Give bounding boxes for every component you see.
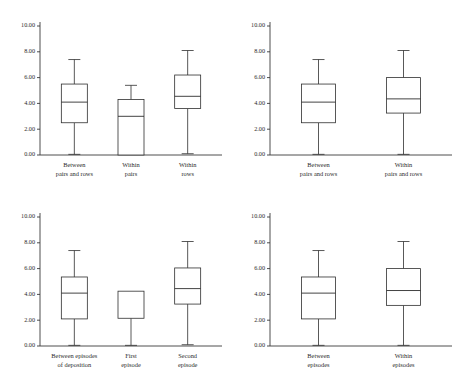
x-axis-category-label: pairs and rows <box>56 170 94 177</box>
x-axis-category-label: Between <box>307 352 330 359</box>
y-axis-tick-label: 8.00 <box>24 47 35 54</box>
box-iqr-rect <box>175 75 201 109</box>
box-iqr-rect <box>118 100 144 155</box>
x-axis-category-label: episodes <box>307 361 330 368</box>
x-axis-category-label: Within <box>395 161 413 168</box>
x-axis-category-label: Within <box>122 161 140 168</box>
y-axis-tick-label: 2.00 <box>24 125 35 132</box>
y-axis-tick-label: 0.00 <box>254 150 265 157</box>
x-axis-category-label: Second <box>178 352 198 359</box>
y-axis-tick-label: 6.00 <box>254 264 265 271</box>
y-axis-tick-label: 10.00 <box>251 212 265 219</box>
y-axis-tick-label: 4.00 <box>254 290 265 297</box>
x-axis-category-label: pairs and rows <box>300 170 338 177</box>
box-plot-group <box>175 242 201 345</box>
box-plot-group <box>61 60 87 155</box>
box-plot-group <box>61 251 87 346</box>
x-axis-category-label: Within <box>179 161 197 168</box>
y-axis-tick-label: 8.00 <box>254 47 265 54</box>
y-axis-tick-label: 10.00 <box>21 21 35 28</box>
y-axis-tick-label: 10.00 <box>21 212 35 219</box>
x-axis-category-label: Within <box>395 352 413 359</box>
box-plot-group <box>387 242 421 346</box>
y-axis-tick-label: 10.00 <box>251 21 265 28</box>
box-iqr-rect <box>387 269 421 306</box>
y-axis-tick-label: 6.00 <box>24 264 35 271</box>
boxplot-svg-bottom-right: 0.002.004.006.008.0010.00Betweenepisodes… <box>230 191 460 382</box>
boxplot-svg-top-right: 0.002.004.006.008.0010.00Betweenpairs an… <box>230 0 460 191</box>
chart-panel-bottom-left: 0.002.004.006.008.0010.00Between episode… <box>0 191 230 382</box>
x-axis-category-label: episode <box>121 361 141 368</box>
y-axis-tick-label: 2.00 <box>254 125 265 132</box>
y-axis-tick-label: 2.00 <box>254 316 265 323</box>
boxplot-svg-top-left: 0.002.004.006.008.0010.00Betweenpairs an… <box>0 0 230 191</box>
x-axis-category-label: Between episodes <box>51 352 97 359</box>
box-plot-group <box>118 291 144 345</box>
boxplot-figure: 0.002.004.006.008.0010.00Betweenpairs an… <box>0 0 460 382</box>
box-plot-group <box>175 51 201 154</box>
x-axis-category-label: episode <box>178 361 198 368</box>
y-axis-tick-label: 2.00 <box>24 316 35 323</box>
box-plot-group <box>118 85 144 155</box>
box-iqr-rect <box>302 277 336 319</box>
boxplot-svg-bottom-left: 0.002.004.006.008.0010.00Between episode… <box>0 191 230 382</box>
box-plot-group <box>302 251 336 346</box>
box-iqr-rect <box>387 78 421 113</box>
box-plot-group <box>302 60 336 155</box>
chart-panel-bottom-right: 0.002.004.006.008.0010.00Betweenepisodes… <box>230 191 460 382</box>
y-axis-tick-label: 4.00 <box>24 99 35 106</box>
x-axis-category-label: Between <box>307 161 330 168</box>
y-axis-tick-label: 6.00 <box>24 73 35 80</box>
box-plot-group <box>387 51 421 155</box>
y-axis-tick-label: 0.00 <box>24 341 35 348</box>
y-axis-tick-label: 0.00 <box>24 150 35 157</box>
y-axis-tick-label: 4.00 <box>24 290 35 297</box>
x-axis-category-label: rows <box>181 170 194 177</box>
y-axis-tick-label: 6.00 <box>254 73 265 80</box>
x-axis-category-label: Between <box>63 161 86 168</box>
box-iqr-rect <box>175 268 201 304</box>
box-iqr-rect <box>61 84 87 123</box>
box-iqr-rect <box>302 84 336 123</box>
chart-panel-top-left: 0.002.004.006.008.0010.00Betweenpairs an… <box>0 0 230 191</box>
x-axis-category-label: pairs <box>125 170 138 177</box>
x-axis-category-label: of deposition <box>58 361 92 368</box>
y-axis-tick-label: 4.00 <box>254 99 265 106</box>
y-axis-tick-label: 8.00 <box>254 238 265 245</box>
box-iqr-rect <box>61 277 87 319</box>
x-axis-category-label: First <box>125 352 137 359</box>
x-axis-category-label: episodes <box>392 361 415 368</box>
chart-panel-top-right: 0.002.004.006.008.0010.00Betweenpairs an… <box>230 0 460 191</box>
y-axis-tick-label: 0.00 <box>254 341 265 348</box>
y-axis-tick-label: 8.00 <box>24 238 35 245</box>
x-axis-category-label: pairs and rows <box>385 170 423 177</box>
box-iqr-rect <box>118 291 144 318</box>
